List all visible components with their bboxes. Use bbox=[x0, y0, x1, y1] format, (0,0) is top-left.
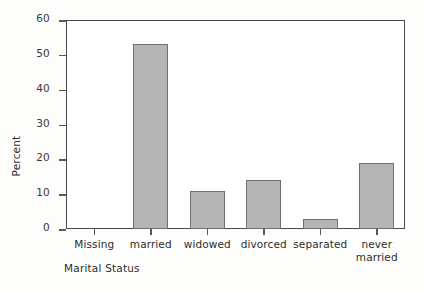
y-axis-tick-mark bbox=[59, 90, 66, 92]
x-axis-tick-mark bbox=[263, 229, 265, 235]
y-axis-tick-mark bbox=[59, 229, 66, 231]
x-axis-tick-label-line: never bbox=[361, 238, 392, 250]
x-axis-tick-label: married bbox=[123, 238, 180, 251]
x-axis-tick-label: separated bbox=[292, 238, 349, 251]
x-axis-tick-mark bbox=[320, 229, 322, 235]
x-axis-tick-label: widowed bbox=[179, 238, 236, 251]
bar bbox=[246, 180, 281, 229]
x-axis-tick-label: divorced bbox=[236, 238, 293, 251]
y-axis-tick-label: 40 bbox=[36, 82, 50, 94]
x-axis-tick-mark bbox=[376, 229, 378, 235]
bar-series bbox=[66, 20, 405, 229]
x-axis-tick-label-line: married bbox=[349, 251, 406, 264]
x-axis: Missingmarriedwidoweddivorcedseparatedne… bbox=[66, 229, 405, 291]
x-axis-tick-label-line: married bbox=[130, 238, 172, 250]
x-axis-tick-mark bbox=[94, 229, 96, 235]
x-axis-tick-label: Missing bbox=[66, 238, 123, 251]
y-axis-tick-label: 10 bbox=[36, 186, 50, 198]
chart-screenshot: 0102030405060 Percent Missingmarriedwido… bbox=[0, 0, 424, 291]
x-axis-tick-label-line: separated bbox=[293, 238, 347, 250]
y-axis-tick-mark bbox=[59, 125, 66, 127]
x-axis-tick-mark bbox=[207, 229, 209, 235]
x-axis-tick-label-line: divorced bbox=[241, 238, 287, 250]
x-axis-tick-label: nevermarried bbox=[349, 238, 406, 264]
x-axis-tick-label-line: widowed bbox=[184, 238, 231, 250]
x-axis-tick-label-line: Missing bbox=[74, 238, 114, 250]
y-axis-tick-mark bbox=[59, 20, 66, 22]
y-axis-tick-label: 50 bbox=[36, 47, 50, 59]
bar bbox=[190, 191, 225, 229]
bar bbox=[303, 219, 338, 229]
y-axis-tick-mark bbox=[59, 55, 66, 57]
bar bbox=[359, 163, 394, 229]
y-axis-tick-label: 0 bbox=[43, 221, 50, 233]
bar bbox=[133, 44, 168, 229]
y-axis-tick-label: 30 bbox=[36, 117, 50, 129]
y-axis-tick-label: 60 bbox=[36, 12, 50, 24]
x-axis-tick-mark bbox=[150, 229, 152, 235]
x-axis-title: Marital Status bbox=[64, 262, 140, 274]
y-axis-tick-mark bbox=[59, 159, 66, 161]
y-axis-tick-mark bbox=[59, 194, 66, 196]
y-axis-title: Percent bbox=[10, 116, 22, 196]
y-axis-tick-label: 20 bbox=[36, 151, 50, 163]
